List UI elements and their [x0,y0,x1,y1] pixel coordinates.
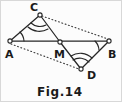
vertex-dot-D [79,67,83,71]
vertex-dot-M [58,40,62,44]
vertex-dot-C [38,13,42,17]
segment-A-C [10,15,40,41]
angle-mark-C-inner [31,23,46,27]
vertex-label-M: M [54,48,65,61]
vertex-label-D: D [87,69,96,82]
vertex-label-C: C [30,1,38,14]
vertex-dot-B [107,39,111,43]
vertex-label-A: A [5,48,14,61]
figure-canvas: A B C D M Fig.14 [0,0,122,102]
angle-mark-D-outer [71,53,92,58]
vertex-dot-A [8,39,12,43]
geometry-figure: A B C D M Fig.14 [0,0,122,102]
angle-mark-C-outer [28,27,48,31]
segment-C-M [40,15,60,42]
angle-mark-B [95,41,99,50]
angle-mark-A [20,32,24,41]
figure-caption: Fig.14 [37,85,83,99]
dotted-C-B [42,16,108,39]
segment-D-B [81,41,109,69]
vertex-label-B: B [108,48,116,61]
dotted-A-D [11,44,79,69]
